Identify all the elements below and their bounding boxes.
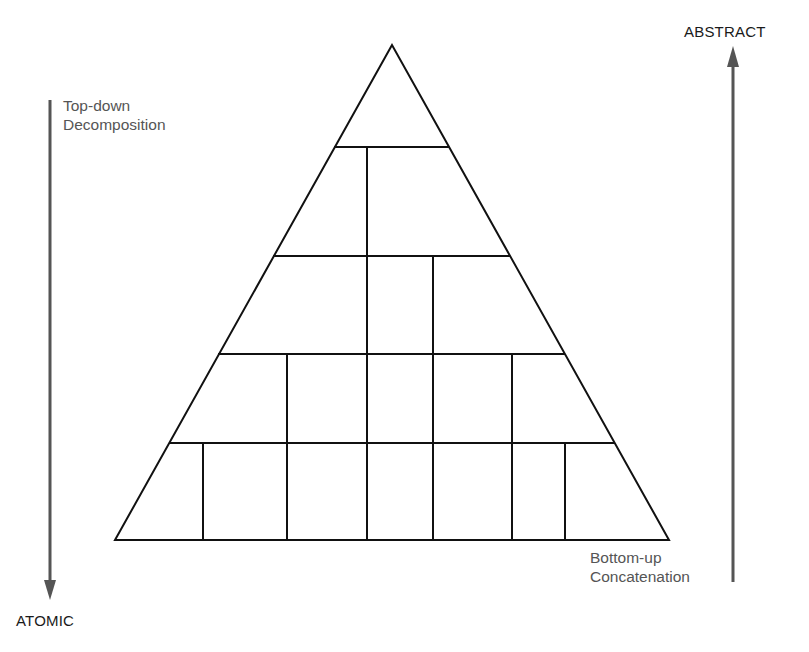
top-down-label-line2: Decomposition <box>63 116 166 134</box>
pyramid <box>115 45 669 540</box>
abstract-label: ABSTRACT <box>684 23 766 41</box>
bottom-up-label-line2: Concatenation <box>590 568 690 586</box>
top-down-arrow-icon <box>44 100 56 600</box>
atomic-label: ATOMIC <box>16 612 74 630</box>
bottom-up-label-line1: Bottom-up <box>590 549 662 567</box>
bottom-up-arrow-icon <box>727 46 739 582</box>
top-down-label-line1: Top-down <box>63 97 130 115</box>
pyramid-outline <box>115 45 669 540</box>
